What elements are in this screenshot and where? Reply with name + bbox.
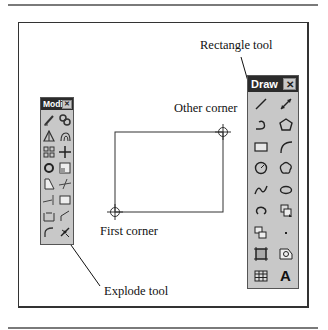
first-corner-label: First corner <box>100 224 158 239</box>
line-tool-icon[interactable] <box>254 97 268 111</box>
other-corner-label: Other corner <box>174 101 238 116</box>
modify-toolbar: Modify ✕ <box>40 97 74 245</box>
polyline-tool-icon[interactable] <box>254 118 268 132</box>
rectangle-tool-icon[interactable] <box>254 140 268 154</box>
scale-tool-icon[interactable] <box>59 162 71 174</box>
multiline-text-tool-icon[interactable]: A <box>280 267 291 284</box>
offset-tool-icon[interactable] <box>59 130 71 142</box>
mirror-tool-icon[interactable] <box>43 130 55 142</box>
explode-tool-callout-line <box>66 238 100 286</box>
array-tool-icon[interactable] <box>43 146 55 158</box>
move-tool-icon[interactable] <box>59 146 71 158</box>
spline-tool-icon[interactable] <box>254 183 268 197</box>
ellipse-arc-tool-icon[interactable] <box>254 204 268 218</box>
region-tool-icon[interactable] <box>279 247 293 261</box>
modify-tools-grid <box>41 110 73 242</box>
hatch-tool-icon[interactable] <box>254 247 268 261</box>
circle-tool-icon[interactable] <box>254 161 268 175</box>
fillet-arc-tool-icon[interactable] <box>43 226 55 238</box>
extend-tool-icon[interactable] <box>43 194 55 206</box>
modify-toolbar-titlebar[interactable]: Modify ✕ <box>41 98 73 110</box>
ellipse-tool-icon[interactable] <box>279 183 293 197</box>
drawn-rectangle <box>115 132 223 212</box>
table-tool-icon[interactable] <box>254 269 268 283</box>
revision-cloud-tool-icon[interactable] <box>279 161 293 175</box>
rotate-tool-icon[interactable] <box>43 162 55 174</box>
text-tool-glyph: A <box>280 267 291 284</box>
stretch-tool-icon[interactable] <box>43 178 55 190</box>
explode-tool-label: Explode tool <box>104 284 168 299</box>
erase-tool-icon[interactable] <box>43 114 55 126</box>
construction-line-tool-icon[interactable] <box>279 97 293 111</box>
arc-tool-icon[interactable] <box>279 140 293 154</box>
polygon-tool-icon[interactable] <box>279 118 293 132</box>
chamfer-tool-icon[interactable] <box>43 210 55 222</box>
trim-tool-icon[interactable] <box>59 178 71 190</box>
other-corner-marker-icon <box>215 124 231 140</box>
draw-tools-grid: A <box>248 92 298 288</box>
draw-toolbar: Draw ✕ A <box>247 75 299 289</box>
first-corner-marker-icon <box>107 204 123 220</box>
modify-toolbar-title: Modify <box>43 99 62 109</box>
insert-block-tool-icon[interactable] <box>279 204 293 218</box>
explode-tool-icon[interactable] <box>59 226 71 238</box>
draw-close-button[interactable]: ✕ <box>283 78 296 90</box>
break-tool-icon[interactable] <box>59 194 71 206</box>
copy-tool-icon[interactable] <box>59 114 71 126</box>
rectangle-tool-label: Rectangle tool <box>200 38 273 53</box>
modify-close-button[interactable]: ✕ <box>62 100 72 109</box>
draw-toolbar-titlebar[interactable]: Draw ✕ <box>248 76 298 92</box>
make-block-tool-icon[interactable] <box>254 226 268 240</box>
fillet-tool-icon[interactable] <box>59 210 71 222</box>
draw-toolbar-title: Draw <box>251 78 278 90</box>
point-tool-icon[interactable] <box>279 226 293 240</box>
